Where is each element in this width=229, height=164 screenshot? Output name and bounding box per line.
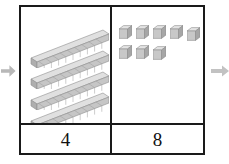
unit-cube <box>153 46 166 60</box>
ten-rod <box>25 28 109 39</box>
blocks-row <box>21 7 203 125</box>
diagram-canvas: 4 8 <box>0 0 229 164</box>
ones-digit-label: 8 <box>112 125 203 153</box>
unit-cube <box>187 27 200 41</box>
unit-cube <box>119 45 132 59</box>
unit-cube <box>170 25 183 39</box>
tens-blocks-group <box>21 7 110 125</box>
tens-digit-label: 4 <box>21 125 110 153</box>
unit-cube <box>136 25 149 39</box>
flow-arrow-in-icon <box>1 62 16 80</box>
place-value-chart: 4 8 <box>19 5 205 155</box>
flow-arrow-out-icon <box>211 63 229 79</box>
ten-rod <box>25 70 109 81</box>
unit-cube <box>136 45 149 59</box>
ones-column-label-cell: 8 <box>110 125 203 153</box>
labels-row: 4 8 <box>21 123 203 153</box>
ones-column-blocks <box>110 7 203 125</box>
tens-column-blocks <box>21 7 110 125</box>
tens-column-label-cell: 4 <box>21 125 110 153</box>
unit-cube <box>153 25 166 39</box>
ten-rod <box>25 49 109 60</box>
unit-cube <box>119 25 132 39</box>
ten-rod <box>25 91 109 102</box>
ones-blocks-group <box>112 7 203 125</box>
